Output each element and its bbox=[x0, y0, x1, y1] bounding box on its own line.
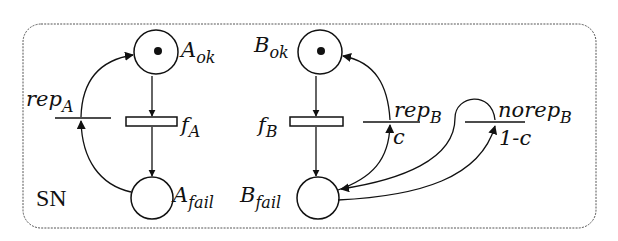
arc-rep-a-to-a-ok bbox=[81, 55, 133, 117]
transition-f-b-label: fB bbox=[256, 113, 278, 141]
transition-norep-b-weight: 1-c bbox=[499, 126, 531, 150]
transition-rep-b-weight: c bbox=[393, 125, 405, 149]
place-a-fail[interactable] bbox=[131, 177, 173, 219]
place-a-ok-label: Aok bbox=[179, 38, 216, 67]
transition-f-a-label: fA bbox=[179, 113, 200, 141]
transition-rep-a-label: repA bbox=[26, 87, 73, 116]
place-b-fail[interactable] bbox=[297, 177, 339, 219]
transition-f-a[interactable] bbox=[126, 117, 177, 126]
subnet-label: SN bbox=[36, 185, 67, 211]
place-b-ok-label: Bok bbox=[253, 33, 289, 62]
place-b-ok[interactable] bbox=[298, 30, 342, 74]
arc-a-fail-to-rep-a bbox=[81, 121, 131, 192]
token-icon bbox=[154, 47, 162, 55]
arc-rep-b-to-b-ok bbox=[343, 56, 390, 120]
place-a-ok[interactable] bbox=[134, 30, 178, 74]
petri-net-diagram: SN Aok Afail fA repA Bok Bfail f bbox=[0, 0, 618, 241]
arc-b-fail-to-norep-b bbox=[338, 126, 495, 200]
token-icon bbox=[317, 47, 325, 55]
place-b-fail-label: Bfail bbox=[239, 183, 281, 212]
transition-f-b[interactable] bbox=[290, 117, 343, 126]
place-a-fail-label: Afail bbox=[171, 183, 214, 212]
